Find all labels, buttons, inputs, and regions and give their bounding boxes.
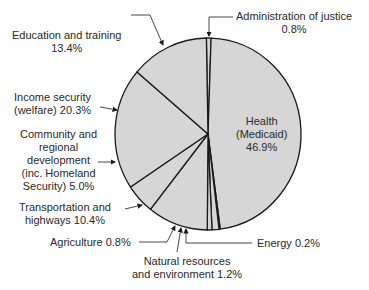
label-transport-value: highways 10.4%	[19, 214, 111, 227]
label-community-l1: Community and	[20, 128, 97, 141]
label-natural: Natural resources and environment 1.2%	[132, 255, 242, 281]
label-natural-value: and environment 1.2%	[132, 268, 242, 281]
label-education-name: Education and training	[12, 29, 121, 42]
label-education-value: 13.4%	[12, 42, 121, 55]
label-natural-name: Natural resources	[132, 255, 242, 268]
label-income-name: Income security	[14, 91, 91, 104]
label-community-l5: Security) 5.0%	[20, 180, 97, 193]
label-agriculture: Agriculture 0.8%	[50, 236, 131, 249]
label-agriculture-text: Agriculture 0.8%	[50, 236, 131, 249]
label-health-l1: Health	[236, 115, 287, 128]
label-health-l2: (Medicaid)	[236, 128, 287, 141]
label-energy-text: Energy 0.2%	[257, 237, 320, 250]
label-justice-value: 0.8%	[236, 23, 352, 36]
label-income-value: (welfare) 20.3%	[14, 104, 91, 117]
label-justice-name: Administration of justice	[236, 10, 352, 23]
label-education: Education and training 13.4%	[12, 29, 121, 55]
label-income: Income security (welfare) 20.3%	[14, 91, 91, 117]
label-community: Community and regional development (inc.…	[20, 128, 97, 193]
label-transport: Transportation and highways 10.4%	[19, 201, 111, 227]
label-justice: Administration of justice 0.8%	[236, 10, 352, 36]
label-transport-name: Transportation and	[19, 201, 111, 214]
label-energy: Energy 0.2%	[257, 237, 320, 250]
label-community-l2: regional	[20, 141, 97, 154]
label-community-l3: development	[20, 154, 97, 167]
label-health: Health (Medicaid) 46.9%	[236, 115, 287, 154]
label-health-value: 46.9%	[236, 141, 287, 154]
label-community-l4: (inc. Homeland	[20, 167, 97, 180]
